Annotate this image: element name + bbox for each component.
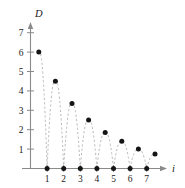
y-tick-label: 1 — [19, 145, 24, 155]
data-point — [36, 50, 41, 55]
data-point — [128, 166, 133, 171]
data-point — [78, 166, 83, 171]
data-point — [45, 166, 50, 171]
data-point — [86, 118, 91, 123]
x-tick-label: 1 — [45, 174, 50, 184]
axes-group — [22, 22, 167, 171]
data-point — [70, 101, 75, 106]
damped-oscillation-scatter-plot: 1234567 1234567 D i — [0, 0, 185, 188]
x-axis-arrowhead — [160, 166, 167, 171]
x-axis-tick-labels: 1234567 — [45, 174, 150, 184]
data-point — [61, 166, 66, 171]
x-tick-label: 4 — [95, 174, 100, 184]
data-point — [94, 166, 99, 171]
x-tick-label: 2 — [61, 174, 66, 184]
y-tick-label: 5 — [19, 67, 24, 77]
y-tick-label: 3 — [19, 106, 24, 116]
y-axis-tick-labels: 1234567 — [19, 28, 24, 154]
x-tick-label: 7 — [144, 174, 149, 184]
x-tick-label: 6 — [128, 174, 133, 184]
data-point — [103, 130, 108, 135]
data-point — [153, 151, 158, 156]
y-tick-label: 2 — [19, 125, 24, 135]
y-tick-label: 4 — [19, 86, 24, 96]
data-point — [136, 147, 141, 152]
data-point-markers — [36, 50, 157, 171]
x-tick-label: 5 — [111, 174, 116, 184]
y-tick-label: 7 — [19, 28, 24, 38]
data-point — [111, 166, 116, 171]
x-axis-label: i — [172, 163, 175, 174]
x-tick-label: 3 — [78, 174, 83, 184]
chart-figure: 1234567 1234567 D i — [0, 0, 185, 188]
data-point — [53, 79, 58, 84]
y-axis-arrowhead — [28, 22, 33, 29]
data-point — [119, 139, 124, 144]
y-tick-label: 6 — [19, 48, 24, 58]
data-point — [144, 166, 149, 171]
y-axis-label: D — [34, 8, 43, 19]
